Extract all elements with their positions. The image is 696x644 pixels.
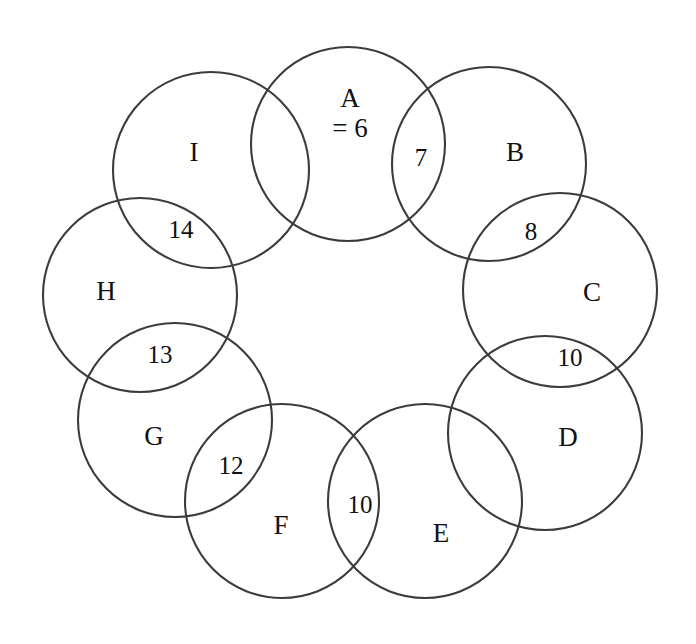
intersection-count-h-i: 14 xyxy=(169,216,194,244)
intersection-count-g-h: 13 xyxy=(148,341,173,369)
set-label-d: D xyxy=(558,422,578,452)
set-label-c: C xyxy=(583,277,601,307)
set-label-a: A= 6 xyxy=(332,83,367,143)
intersection-count-f-g: 12 xyxy=(219,452,244,480)
set-label-g: G xyxy=(144,421,164,451)
intersection-count-a-b: 7 xyxy=(415,144,428,172)
set-label-f: F xyxy=(273,510,288,540)
set-circle-h xyxy=(43,198,237,392)
set-label-b: B xyxy=(506,137,524,167)
set-circle-g xyxy=(78,323,272,517)
set-label-h: H xyxy=(96,276,116,306)
set-label-e: E xyxy=(433,518,450,548)
set-circle-i xyxy=(113,72,309,268)
venn-diagram-canvas: A= 6BCDEFGHI781010121314 xyxy=(0,0,696,644)
intersection-count-c-d: 10 xyxy=(558,344,583,372)
set-label-a-value: = 6 xyxy=(332,113,367,143)
set-label-a-name: A xyxy=(332,83,367,113)
set-circle-d xyxy=(448,336,642,530)
intersection-count-e-f: 10 xyxy=(348,491,373,519)
intersection-count-b-c: 8 xyxy=(525,218,538,246)
set-label-i: I xyxy=(190,137,199,167)
